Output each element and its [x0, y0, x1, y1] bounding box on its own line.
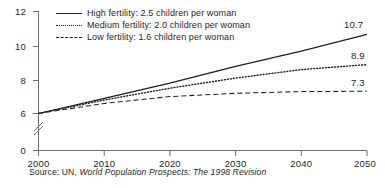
- x-axis-ticks: [39, 151, 368, 157]
- solid-line-key-icon: [56, 8, 82, 18]
- end-label-low-fertility: 7.3: [351, 77, 365, 88]
- x-tick-label-2050: 2050: [345, 158, 385, 169]
- chart-legend: High fertility: 2.5 children per woman M…: [56, 7, 266, 43]
- y-tick-label-10: 10: [8, 41, 26, 52]
- legend-label-high-fertility: High fertility: 2.5 children per woman: [87, 8, 236, 18]
- x-tick-label-2040: 2040: [281, 158, 321, 169]
- legend-label-low-fertility: Low fertility: 1.6 children per woman: [87, 32, 234, 42]
- y-tick-label-8: 8: [8, 75, 26, 86]
- dotted-line-key-icon: [56, 20, 82, 30]
- end-label-medium-fertility: 8.9: [351, 50, 365, 61]
- legend-item-high-fertility[interactable]: High fertility: 2.5 children per woman: [56, 7, 266, 19]
- end-label-high-fertility: 10.7: [344, 19, 363, 30]
- legend-item-medium-fertility[interactable]: Medium fertility: 2.0 children per woman: [56, 19, 266, 31]
- figure: 12 10 8 6 0 2000 2010 2020 2030 2040 205…: [0, 0, 385, 188]
- source-title: World Population Prospects: The 1998 Rev…: [79, 167, 266, 177]
- series-line-high-fertility: [39, 34, 368, 113]
- y-tick-label-6: 6: [8, 108, 26, 119]
- source-note: Source: UN, World Population Prospects: …: [29, 167, 266, 177]
- legend-label-medium-fertility: Medium fertility: 2.0 children per woman: [87, 20, 250, 30]
- dashed-line-key-icon: [56, 32, 82, 42]
- legend-item-low-fertility[interactable]: Low fertility: 1.6 children per woman: [56, 31, 266, 43]
- y-tick-label-0: 0: [8, 145, 26, 156]
- source-prefix: Source: UN,: [29, 167, 79, 177]
- y-tick-label-12: 12: [8, 6, 26, 17]
